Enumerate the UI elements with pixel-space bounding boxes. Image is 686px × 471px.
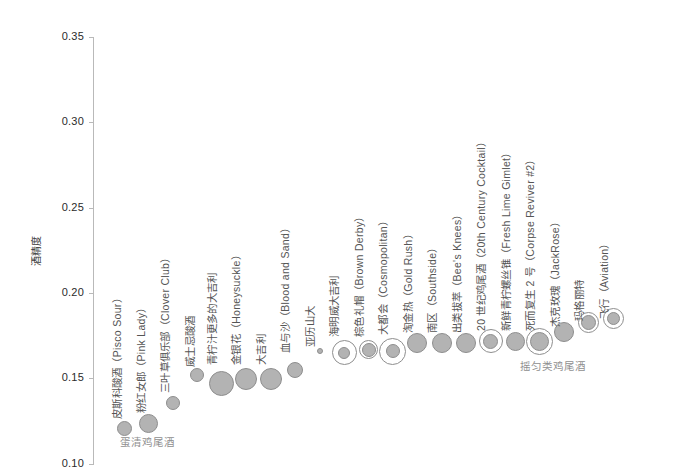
point-label: 新鲜青柠螺丝锥（Fresh Lime Gimlet） [498,147,513,331]
y-tick-label-035: 0.35 [38,30,84,42]
chart-annotation: 蛋清鸡尾酒 [120,434,175,449]
data-point-core [407,333,427,353]
point-label: 粉红女郎（Pink Lady） [133,302,148,413]
y-tick-label-010: 0.10 [38,457,84,469]
chart-annotation: 摇匀类鸡尾酒 [520,358,586,373]
y-tick-mark-020 [89,293,94,294]
data-point-core [190,368,204,382]
data-point-core [362,343,376,357]
point-label: 皮斯科酸酒（Pisco Sour） [109,293,124,419]
data-point-core [235,368,257,390]
data-point-core [483,334,498,349]
point-label: 青柠汁更多的大吉利 [204,272,219,365]
data-point-core [317,348,323,354]
point-label: 20 世纪鸡尾酒（20th Century Cocktail） [473,137,488,331]
point-label: 飞行（Aviation） [596,238,611,319]
y-tick-label-025: 0.25 [38,201,84,213]
point-label: 海明威大吉利 [326,275,341,337]
point-label: 亚历山大 [302,306,317,347]
y-axis-title: 酒精度 [28,236,43,266]
data-point-core [338,347,350,359]
data-point-core [456,333,476,353]
point-label: 玛格丽特 [571,280,586,321]
point-label: 出类拔萃（Bee's Knees） [449,209,464,333]
point-label: 三叶草俱乐部（Clover Club） [157,252,172,393]
data-point-core [139,414,158,433]
point-label: 南区（Southside） [424,242,439,333]
y-tick-mark-035 [89,37,94,38]
y-tick-mark-010 [89,464,94,465]
y-tick-label-015: 0.15 [38,371,84,383]
y-axis-line [93,37,94,464]
data-point-core [506,332,525,351]
point-label: 大都会（Cosmopolitan） [375,216,390,335]
point-label: 金银花（Honeysuckle） [228,250,243,365]
point-label: 淘金热（Gold Rush） [400,229,415,333]
point-label: 杰克玫瑰（JackRose） [547,217,562,327]
scatter-chart: 酒精度 0.35 0.30 0.25 0.20 0.15 0.10 皮斯科酸酒（… [0,0,686,471]
y-tick-label-020: 0.20 [38,286,84,298]
data-point-core [166,396,180,410]
point-label: 棕色礼帽（Brown Derby） [351,211,366,337]
data-point-core [432,333,452,353]
data-point-core [287,362,303,378]
y-tick-mark-025 [89,208,94,209]
y-tick-mark-030 [89,122,94,123]
point-label: 血与沙（Blood and Sand） [277,223,292,353]
point-label: 死而复生 2 号（Corpse Reviver #2） [522,154,537,331]
point-label: 威士忌酸酒 [182,316,197,368]
data-point-core [530,332,549,351]
y-tick-mark-015 [89,378,94,379]
y-tick-label-030: 0.30 [38,115,84,127]
point-label: 大吉利 [253,334,268,365]
